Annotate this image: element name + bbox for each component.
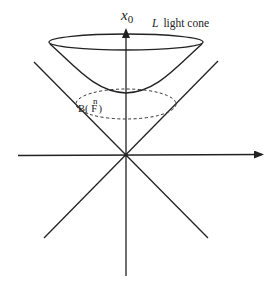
light-cone-label: Llight cone: [151, 17, 209, 30]
cone-line-right-to-left: [44, 61, 218, 238]
light-cone-diagram: x0 Llight cone B( Fn): [0, 0, 275, 288]
diagram-svg: x0 Llight cone B( Fn): [0, 0, 275, 288]
region-label-bfn: B( Fn): [78, 96, 102, 115]
cone-line-left-to-right: [34, 62, 208, 238]
origin-point: [124, 153, 128, 157]
horizontal-axis: [18, 155, 262, 156]
axis-label-x0: x0: [120, 7, 134, 25]
